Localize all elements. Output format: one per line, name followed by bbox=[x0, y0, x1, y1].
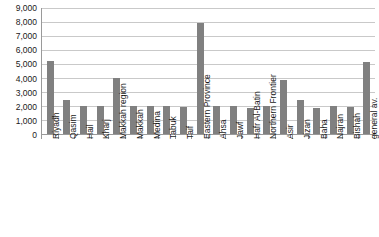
x-axis-category-label: Eastern Province bbox=[203, 74, 212, 139]
x-axis-category-label: Riyadh bbox=[53, 113, 62, 139]
x-axis-label-cell: Jawf bbox=[225, 139, 242, 235]
x-axis-category-label: Medina bbox=[153, 111, 162, 139]
x-axis-label-cell: Northern Frontier bbox=[258, 139, 275, 235]
y-axis-tick-label: 6,000 bbox=[16, 46, 37, 55]
x-axis-category-label: Ahsa bbox=[220, 120, 229, 139]
x-axis-label-cell: Medina bbox=[141, 139, 158, 235]
x-axis-category-label: Asir bbox=[286, 124, 295, 139]
x-axis-label-cell: Qasim bbox=[58, 139, 75, 235]
x-axis-category-label: Jawf bbox=[236, 122, 245, 139]
x-axis-category-label: Taif bbox=[186, 126, 195, 139]
x-axis-category-label: Tabuk bbox=[169, 116, 178, 139]
x-axis-label-cell: general av. bbox=[358, 139, 375, 235]
x-axis-label-cell: Baha bbox=[308, 139, 325, 235]
x-axis-label-cell: Hail bbox=[74, 139, 91, 235]
x-axis-category-label: Hafr Al-Batin bbox=[253, 91, 262, 139]
y-axis-tick-label: 4,000 bbox=[16, 74, 37, 83]
x-axis-label-cell: Jizan bbox=[292, 139, 309, 235]
x-axis-label-cell: Bishah bbox=[342, 139, 359, 235]
y-axis-tick-label: 2,000 bbox=[16, 103, 37, 112]
bar-slot bbox=[225, 8, 242, 134]
y-axis-tick-label: 8,000 bbox=[16, 18, 37, 27]
x-axis-category-label: Hail bbox=[86, 124, 95, 139]
x-axis-label-cell: Asir bbox=[275, 139, 292, 235]
y-axis-tick-label: 3,000 bbox=[16, 88, 37, 97]
x-axis-category-label: Makkah region bbox=[119, 83, 128, 139]
y-axis-tick-label: 9,000 bbox=[16, 4, 37, 13]
x-axis-label-cell: Makkah bbox=[125, 139, 142, 235]
y-axis-tick-label: 1,000 bbox=[16, 117, 37, 126]
y-axis-tick-label: 7,000 bbox=[16, 32, 37, 41]
x-axis-category-label: Qasim bbox=[69, 114, 78, 139]
y-axis-tick-label: 5,000 bbox=[16, 60, 37, 69]
x-axis-label-cell: Taif bbox=[175, 139, 192, 235]
x-axis-label-cell: Eastern Province bbox=[191, 139, 208, 235]
x-axis-category-label: Jizan bbox=[303, 119, 312, 139]
x-axis-category-label: Kharj bbox=[103, 119, 112, 139]
x-axis-category-label: general av. bbox=[370, 98, 379, 139]
x-axis-category-label: Makkah bbox=[136, 109, 145, 139]
x-axis-label-cell: Najran bbox=[325, 139, 342, 235]
x-axis-label-cell: Hafr Al-Batin bbox=[241, 139, 258, 235]
x-axis-category-label: Baha bbox=[320, 119, 329, 139]
x-axis-label-cell: Ahsa bbox=[208, 139, 225, 235]
x-axis-label-cell: Tabuk bbox=[158, 139, 175, 235]
y-axis-tick-label: 0 bbox=[32, 131, 37, 140]
x-axis-category-label: Northern Frontier bbox=[270, 74, 279, 139]
x-axis-category-label: Najran bbox=[336, 114, 345, 139]
x-axis-category-label: Bishah bbox=[353, 113, 362, 139]
y-axis: 9,0008,0007,0006,0005,0004,0003,0002,000… bbox=[0, 8, 40, 135]
bar-slot bbox=[292, 8, 309, 134]
bar-slot bbox=[92, 8, 109, 134]
x-axis-label-cell: Kharj bbox=[91, 139, 108, 235]
x-axis-label-cell: Riyadh bbox=[41, 139, 58, 235]
bar-slot bbox=[309, 8, 326, 134]
x-axis-label-cell: Makkah region bbox=[108, 139, 125, 235]
x-axis-labels: RiyadhQasimHailKharjMakkah regionMakkahM… bbox=[41, 139, 375, 235]
